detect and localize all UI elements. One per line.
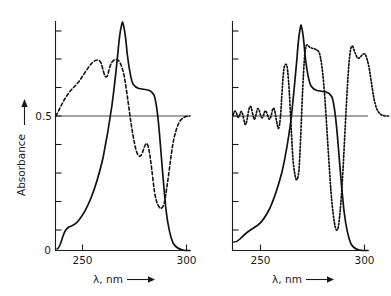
left-x-axis-arrow-icon [127, 276, 155, 282]
right-x-tick-label-300: 300 [354, 254, 374, 266]
left-x-ticks [83, 245, 187, 251]
right-x-ticks [261, 245, 365, 251]
right-x-axis-title: λ, nm [272, 273, 302, 285]
right-derivative-curve [233, 45, 389, 230]
left-y-axis-title: Absorbance [15, 134, 27, 196]
left-y-ticks [56, 31, 62, 230]
left-y-tick-label-half: 0.5 [35, 110, 52, 122]
right-y-ticks [233, 31, 239, 230]
left-derivative-curve [56, 60, 190, 209]
figure-svg: 0 0.5 250 300 λ, nm Absorbance [0, 0, 391, 296]
right-panel: 250 300 λ, nm [233, 21, 390, 285]
left-y-tick-label-0: 0 [44, 244, 51, 256]
right-x-tick-label-250: 250 [250, 254, 270, 266]
left-x-tick-label-250: 250 [72, 254, 92, 266]
left-x-tick-label-300: 300 [176, 254, 196, 266]
left-panel: 0 0.5 250 300 λ, nm Absorbance [15, 21, 197, 285]
spectra-figure: 0 0.5 250 300 λ, nm Absorbance [0, 0, 391, 296]
right-x-axis-arrow-icon [306, 276, 334, 282]
left-absorbance-curve [57, 22, 190, 251]
left-x-axis-title: λ, nm [93, 273, 123, 285]
left-y-axis-arrow-icon [21, 99, 27, 125]
